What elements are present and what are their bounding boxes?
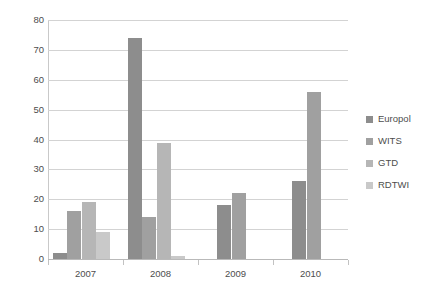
y-axis-tick-label: 80	[4, 15, 44, 25]
x-axis-tick-mark	[198, 260, 199, 265]
legend: EuropolWITSGTDRDTWI	[366, 108, 422, 196]
y-axis-tick-label: 10	[4, 224, 44, 234]
legend-swatch-icon	[366, 160, 373, 167]
y-axis-tick-label: 50	[4, 105, 44, 115]
bar	[307, 92, 321, 259]
bar	[128, 38, 142, 259]
bar	[82, 202, 96, 259]
legend-label: Europol	[378, 114, 411, 124]
grid-line	[48, 140, 348, 141]
y-axis-tick-labels: 01020304050607080	[0, 20, 44, 259]
legend-item: GTD	[366, 152, 422, 174]
x-axis-tick-label: 2010	[300, 268, 321, 279]
x-axis-tick-mark	[48, 260, 49, 265]
x-axis-tick-label: 2007	[75, 268, 96, 279]
bar	[292, 181, 306, 259]
legend-item: WITS	[366, 130, 422, 152]
legend-swatch-icon	[366, 138, 373, 145]
grid-line	[48, 169, 348, 170]
bar	[53, 253, 67, 259]
y-axis-tick-label: 20	[4, 195, 44, 205]
legend-label: GTD	[378, 158, 398, 168]
legend-swatch-icon	[366, 116, 373, 123]
legend-item: RDTWI	[366, 174, 422, 196]
bar	[67, 211, 81, 259]
x-axis-tick-label: 2009	[225, 268, 246, 279]
legend-label: RDTWI	[378, 180, 409, 190]
y-axis-tick-label: 70	[4, 45, 44, 55]
bar	[232, 193, 246, 259]
plot-area	[48, 20, 348, 259]
bar	[157, 143, 171, 260]
y-axis-tick-label: 40	[4, 135, 44, 145]
bar	[96, 232, 110, 259]
bar	[217, 205, 231, 259]
y-axis-tick-label: 0	[4, 254, 44, 264]
x-axis-tick-mark	[123, 260, 124, 265]
legend-item: Europol	[366, 108, 422, 130]
x-axis-tick-label: 2008	[150, 268, 171, 279]
grid-line	[48, 20, 348, 21]
bar-chart: 01020304050607080 2007200820092010 Europ…	[0, 0, 423, 297]
grid-line	[48, 110, 348, 111]
grid-line	[48, 80, 348, 81]
y-axis-tick-label: 30	[4, 165, 44, 175]
grid-line	[48, 50, 348, 51]
bar	[171, 256, 185, 259]
x-axis-tick-mark	[273, 260, 274, 265]
legend-label: WITS	[378, 136, 402, 146]
x-axis-tick-mark	[348, 260, 349, 265]
x-axis-tick-labels: 2007200820092010	[48, 260, 348, 284]
bar	[142, 217, 156, 259]
legend-swatch-icon	[366, 182, 373, 189]
y-axis-tick-label: 60	[4, 75, 44, 85]
